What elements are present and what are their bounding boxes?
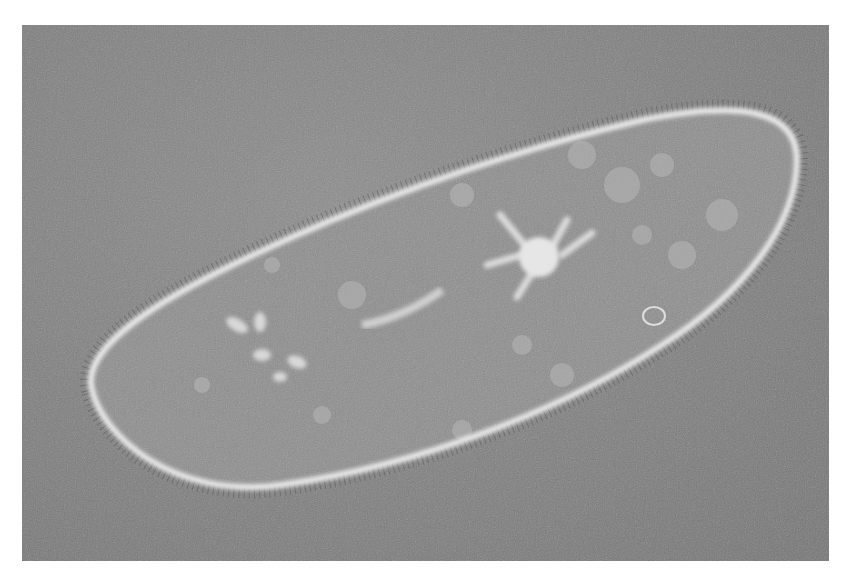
paramecium-illustration [22,25,829,561]
micrograph [22,25,829,561]
